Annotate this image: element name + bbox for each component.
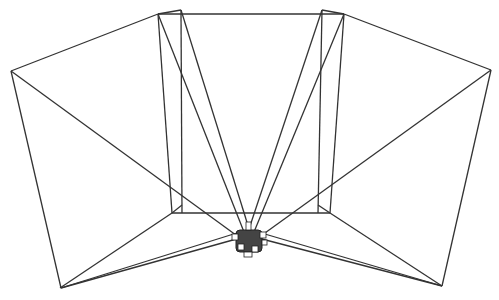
wireframe-drawing — [0, 0, 499, 300]
hub-body — [232, 222, 267, 257]
right-panel — [258, 14, 491, 286]
left-panel — [11, 14, 240, 288]
